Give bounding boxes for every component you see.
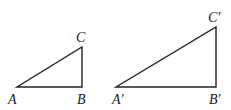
- label-c: C: [76, 30, 86, 45]
- label-a-prime: A′: [111, 92, 125, 107]
- triangle-abc: [17, 47, 82, 87]
- label-a: A: [7, 92, 17, 107]
- triangle-a-prime-b-prime-c-prime: [116, 27, 216, 87]
- similar-triangles-diagram: A B C A′ B′ C′: [0, 0, 231, 110]
- label-c-prime: C′: [208, 10, 221, 25]
- label-b-prime: B′: [209, 92, 222, 107]
- label-b: B: [77, 92, 86, 107]
